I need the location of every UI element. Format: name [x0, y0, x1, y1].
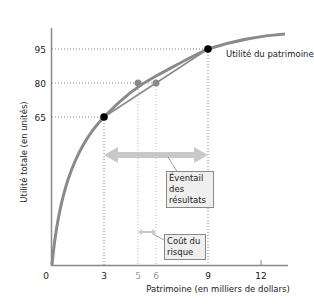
point-3-65: [100, 113, 108, 121]
guide-lines-grey: [138, 83, 156, 265]
cost-callout: Coût du risque: [164, 234, 206, 260]
point-6-80: [153, 80, 160, 87]
cost-callout-line2: risque: [167, 247, 203, 258]
x-tick-12: 12: [255, 271, 266, 281]
x-tick-9: 9: [205, 271, 211, 281]
point-5-80: [135, 80, 142, 87]
point-9-95: [204, 45, 212, 53]
y-tick-65: 65: [35, 113, 46, 123]
range-callout-line1: Éventail: [169, 173, 211, 184]
x-tick-5: 5: [135, 271, 141, 281]
x-tick-6: 6: [153, 271, 159, 281]
x-tick-0: 0: [43, 271, 49, 281]
curve-label: Utilité du patrimoine: [226, 49, 314, 59]
cost-callout-line1: Coût du: [167, 236, 203, 247]
range-callout-line3: résultats: [169, 195, 211, 206]
x-tick-3: 3: [101, 271, 107, 281]
range-callout-line2: des: [169, 184, 211, 195]
chart: 95 80 65 0 3 5 6 9 12 Patrimoine (en mil…: [0, 0, 314, 308]
y-tick-95: 95: [35, 45, 46, 55]
x-axis-title: Patrimoine (en milliers de dollars): [146, 284, 290, 294]
y-axis-title: Utilité totale (en unités): [19, 101, 29, 202]
range-callout: Éventail des résultats: [166, 171, 214, 208]
y-tick-80: 80: [35, 79, 47, 89]
utility-curve: [52, 34, 285, 265]
cost-leader: [153, 234, 164, 240]
